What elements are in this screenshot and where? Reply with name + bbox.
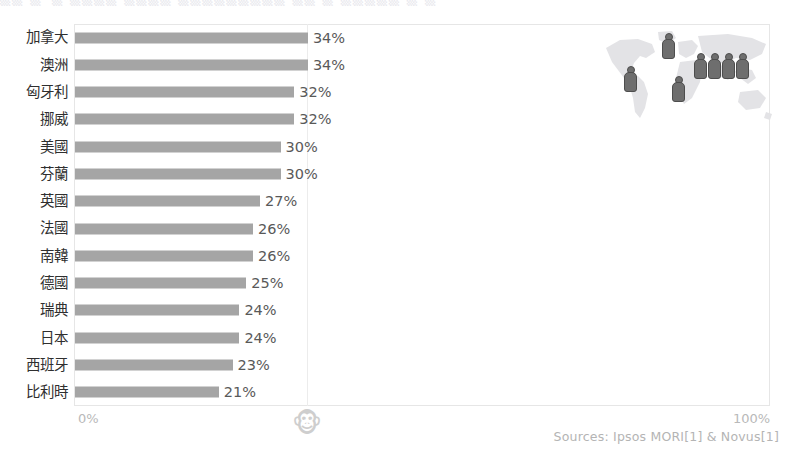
bar-row: 法國26% <box>0 215 791 242</box>
category-label: 美國 <box>0 140 68 155</box>
bar-row: 比利時21% <box>0 379 791 406</box>
bar-value-label: 26% <box>258 249 290 264</box>
bar-value-label: 24% <box>244 303 276 318</box>
person-pin-body <box>672 82 685 102</box>
clipped-page-heading: ▒▒ ▒─▒ ▒▒▒▒ ▒▒▒▒ ▒▒▒▒▒▒▒▒▒ ▒▒ ▒ ▒▒▒▒▒ ▒ … <box>0 0 791 9</box>
bar-value-label: 32% <box>299 85 331 100</box>
bar <box>75 278 246 289</box>
bar-row: 南韓26% <box>0 242 791 269</box>
person-pin-icon <box>708 53 721 79</box>
bar-value-label: 27% <box>265 194 297 209</box>
bar-value-label: 34% <box>313 58 345 73</box>
bar-value-label: 30% <box>286 167 318 182</box>
category-label: 芬蘭 <box>0 167 68 182</box>
world-map-inset <box>600 26 778 126</box>
bar-value-label: 34% <box>313 30 345 45</box>
bar-value-label: 32% <box>299 112 331 127</box>
bar-row: 芬蘭30% <box>0 160 791 187</box>
category-label: 英國 <box>0 194 68 209</box>
bar-value-label: 24% <box>244 331 276 346</box>
monkey-face-icon: 🐵 <box>291 408 323 438</box>
bar <box>75 223 253 234</box>
category-label: 法國 <box>0 221 68 236</box>
person-pin-icon <box>662 33 675 59</box>
person-pin-body <box>662 39 675 59</box>
bar-row: 英國27% <box>0 188 791 215</box>
bar-value-label: 23% <box>238 358 270 373</box>
bar-value-label: 26% <box>258 221 290 236</box>
person-pin-body <box>722 59 735 79</box>
category-label: 澳洲 <box>0 58 68 73</box>
bar <box>75 332 239 343</box>
category-label: 日本 <box>0 331 68 346</box>
bar <box>75 87 294 98</box>
person-pin-icon <box>624 66 637 92</box>
bar <box>75 32 308 43</box>
person-pin-body <box>708 59 721 79</box>
person-pin-icon <box>672 76 685 102</box>
category-label: 瑞典 <box>0 303 68 318</box>
category-label: 加拿大 <box>0 30 68 45</box>
bar <box>75 59 308 70</box>
bar-row: 德國25% <box>0 270 791 297</box>
bar <box>75 114 294 125</box>
person-pin-icon <box>722 53 735 79</box>
sources-footnote: Sources: Ipsos MORI[1] & Novus[1] <box>554 429 779 444</box>
bar-row: 西班牙23% <box>0 351 791 378</box>
person-pin-body <box>736 59 749 79</box>
bar <box>75 196 260 207</box>
bar-row: 美國30% <box>0 133 791 160</box>
bar-value-label: 25% <box>251 276 283 291</box>
bar-row: 瑞典24% <box>0 297 791 324</box>
category-label: 南韓 <box>0 249 68 264</box>
person-pin-icon <box>736 53 749 79</box>
category-label: 挪威 <box>0 112 68 127</box>
bar <box>75 250 253 261</box>
person-pin-body <box>694 59 707 79</box>
person-pin-body <box>624 72 637 92</box>
category-label: 匈牙利 <box>0 85 68 100</box>
person-pin-icon <box>694 53 707 79</box>
category-label: 比利時 <box>0 385 68 400</box>
category-label: 德國 <box>0 276 68 291</box>
bar <box>75 141 281 152</box>
bar-row: 日本24% <box>0 324 791 351</box>
x-axis-min-label: 0% <box>78 411 99 426</box>
bar <box>75 305 239 316</box>
category-label: 西班牙 <box>0 358 68 373</box>
bar <box>75 387 219 398</box>
bar-value-label: 21% <box>224 385 256 400</box>
bar <box>75 169 281 180</box>
bar <box>75 360 233 371</box>
bar-value-label: 30% <box>286 140 318 155</box>
x-axis-max-label: 100% <box>733 411 770 426</box>
